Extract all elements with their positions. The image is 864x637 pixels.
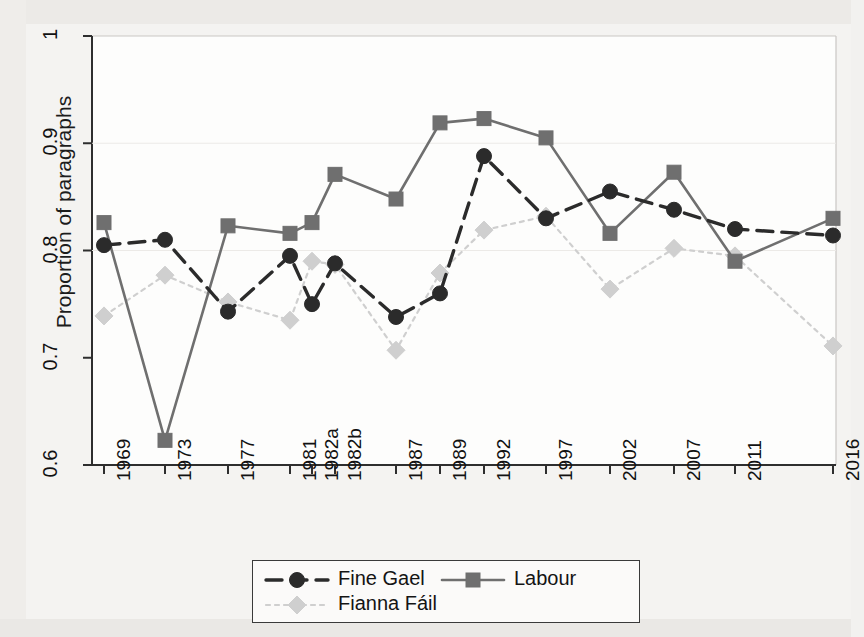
x-tick-label: 1981	[299, 439, 321, 481]
legend-label-labour: Labour	[514, 567, 576, 590]
data-point-labour	[389, 192, 403, 206]
y-tick-label: 0.9	[39, 112, 62, 172]
data-point-labour	[603, 226, 617, 240]
data-point-fine-gael	[97, 238, 112, 253]
data-point-fine-gael	[158, 232, 173, 247]
data-point-fine-gael	[389, 309, 404, 324]
x-tick-label: 1987	[405, 439, 427, 481]
x-tick-label: 2002	[619, 439, 641, 481]
data-point-labour	[158, 433, 172, 447]
x-tick-label: 1982a	[321, 428, 343, 481]
y-tick-label: 1	[39, 5, 62, 65]
x-tick-label: 1982b	[344, 428, 366, 481]
legend-label-fianna-fáil: Fianna Fáil	[338, 592, 437, 615]
data-point-labour	[728, 254, 742, 268]
x-tick-label: 2016	[842, 439, 864, 481]
data-point-labour	[477, 112, 491, 126]
x-tick-label: 1997	[555, 439, 577, 481]
data-point-labour	[826, 211, 840, 225]
data-point-fine-gael	[603, 184, 618, 199]
y-tick-label: 0.8	[39, 219, 62, 279]
data-point-labour	[667, 165, 681, 179]
data-point-fine-gael	[328, 256, 343, 271]
data-point-fine-gael	[433, 286, 448, 301]
x-tick-label: 2011	[744, 440, 766, 481]
x-tick-label: 1969	[113, 439, 135, 481]
data-point-labour	[433, 116, 447, 130]
data-point-fine-gael	[283, 248, 298, 263]
chart-legend	[252, 560, 640, 623]
x-tick-label: 1992	[493, 439, 515, 481]
data-point-labour	[539, 131, 553, 145]
legend-label-fine-gael: Fine Gael	[338, 567, 425, 590]
data-point-fine-gael	[826, 228, 841, 243]
x-tick-label: 1973	[174, 439, 196, 481]
x-tick-label: 1989	[449, 439, 471, 481]
data-point-labour	[221, 219, 235, 233]
data-point-fine-gael	[305, 297, 320, 312]
data-point-fine-gael	[539, 211, 554, 226]
y-axis-title: Proportion of paragraphs	[52, 62, 76, 362]
data-point-labour	[305, 216, 319, 230]
x-tick-label: 2007	[683, 439, 705, 481]
x-tick-label: 1977	[237, 439, 259, 481]
data-point-fine-gael	[477, 149, 492, 164]
y-tick-label: 0.6	[39, 434, 62, 494]
data-point-fine-gael	[728, 222, 743, 237]
data-point-fine-gael	[221, 304, 236, 319]
y-tick-label: 0.7	[39, 326, 62, 386]
data-point-fine-gael	[667, 202, 682, 217]
data-point-labour	[283, 226, 297, 240]
data-point-labour	[328, 167, 342, 181]
data-point-labour	[97, 216, 111, 230]
